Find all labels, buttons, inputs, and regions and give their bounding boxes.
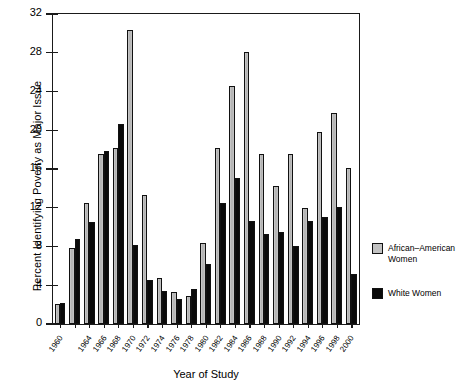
x-axis-tick xyxy=(75,324,76,328)
bar-white-women xyxy=(308,221,313,324)
x-axis-tick xyxy=(206,324,207,328)
bar-white-women xyxy=(206,264,211,324)
x-axis-tick xyxy=(351,324,352,328)
x-axis-tick xyxy=(337,324,338,328)
bar-white-women xyxy=(162,291,167,324)
x-axis-tick xyxy=(89,324,90,328)
y-axis-tick-label: 24 xyxy=(16,84,42,96)
bar-white-women xyxy=(104,151,109,324)
y-axis-tick-label: 12 xyxy=(16,200,42,212)
y-axis-tick-label: 32 xyxy=(16,6,42,18)
x-axis-tick xyxy=(162,324,163,328)
bar-white-women xyxy=(133,245,138,324)
bar-white-women xyxy=(118,124,123,324)
y-axis-tick-label: 16 xyxy=(16,161,42,173)
bar-white-women xyxy=(264,234,269,324)
y-axis-tick-label: 8 xyxy=(16,239,42,251)
x-axis-tick xyxy=(177,324,178,328)
bar-white-women xyxy=(322,217,327,324)
bar-white-women xyxy=(89,222,94,324)
x-axis-tick xyxy=(308,324,309,328)
bar-white-women xyxy=(249,221,254,324)
plot-area: 048121620242832 xyxy=(52,13,360,325)
bar-white-women xyxy=(293,246,298,324)
x-axis-tick xyxy=(279,324,280,328)
legend-swatch-icon-white-women xyxy=(372,288,383,299)
x-axis-tick xyxy=(191,324,192,328)
legend-label-african-american-women: African–American Women xyxy=(388,243,455,264)
bar-series-container xyxy=(53,14,359,324)
legend-label-white-women: White Women xyxy=(388,288,441,299)
bar-white-women xyxy=(220,203,225,324)
bar-white-women xyxy=(279,232,284,324)
bar-white-women xyxy=(75,239,80,324)
bar-white-women xyxy=(147,280,152,324)
y-axis-tick-label: 20 xyxy=(16,123,42,135)
x-axis-tick xyxy=(322,324,323,328)
x-axis-tick xyxy=(264,324,265,328)
bar-white-women xyxy=(177,299,182,324)
x-axis-tick xyxy=(249,324,250,328)
y-axis-tick-label: 28 xyxy=(16,45,42,57)
x-axis-tick xyxy=(118,324,119,328)
legend-item-white-women: White Women xyxy=(372,288,458,299)
x-axis-tick xyxy=(147,324,148,328)
legend: African–American Women White Women xyxy=(372,243,458,323)
x-axis-tick xyxy=(235,324,236,328)
x-axis-tick xyxy=(60,324,61,328)
bar-white-women xyxy=(60,303,65,324)
y-axis-tick-label: 4 xyxy=(16,278,42,290)
legend-swatch-icon-african-american-women xyxy=(372,243,383,254)
x-axis-tick-label: 1960 xyxy=(44,334,65,359)
legend-item-african-american-women: African–American Women xyxy=(372,243,458,264)
bar-white-women xyxy=(337,207,342,324)
x-axis-title: Year of Study xyxy=(52,368,360,380)
x-axis-tick xyxy=(104,324,105,328)
poverty-bar-chart-figure: Percent Identifying Poverty as Major Iss… xyxy=(0,0,459,388)
x-axis-tick xyxy=(220,324,221,328)
bar-white-women xyxy=(235,178,240,324)
x-axis-tick xyxy=(133,324,134,328)
y-axis-tick-label: 0 xyxy=(16,316,42,328)
x-axis-tick xyxy=(293,324,294,328)
bar-white-women xyxy=(351,274,356,324)
bar-white-women xyxy=(191,289,196,324)
